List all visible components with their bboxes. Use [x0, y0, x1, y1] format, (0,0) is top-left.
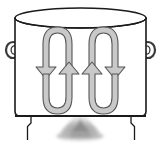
convection-pot-figure: Convection currents in a heated pot gray…: [0, 0, 161, 145]
pot-body: [15, 18, 146, 116]
diagram-canvas: [0, 0, 161, 145]
